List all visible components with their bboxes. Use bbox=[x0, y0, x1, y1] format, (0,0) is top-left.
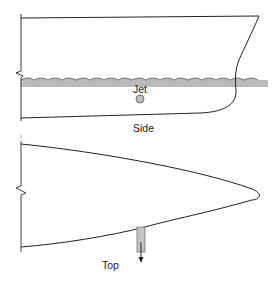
top-view-label: Top bbox=[102, 259, 119, 271]
jet-port-icon bbox=[136, 95, 144, 103]
top-hull-cut-line bbox=[16, 141, 26, 252]
side-hull-cut-line bbox=[16, 14, 23, 121]
thrust-arrow-icon bbox=[139, 257, 144, 263]
jet-label: Jet bbox=[133, 83, 147, 95]
side-view-label: Side bbox=[133, 122, 154, 134]
side-deck-line bbox=[21, 16, 259, 18]
top-view: Top bbox=[16, 141, 260, 271]
side-view: Jet Side bbox=[16, 14, 268, 134]
ship-jet-diagram: Jet Side Top bbox=[0, 0, 278, 284]
diagram-canvas: Jet Side Top bbox=[0, 0, 278, 284]
